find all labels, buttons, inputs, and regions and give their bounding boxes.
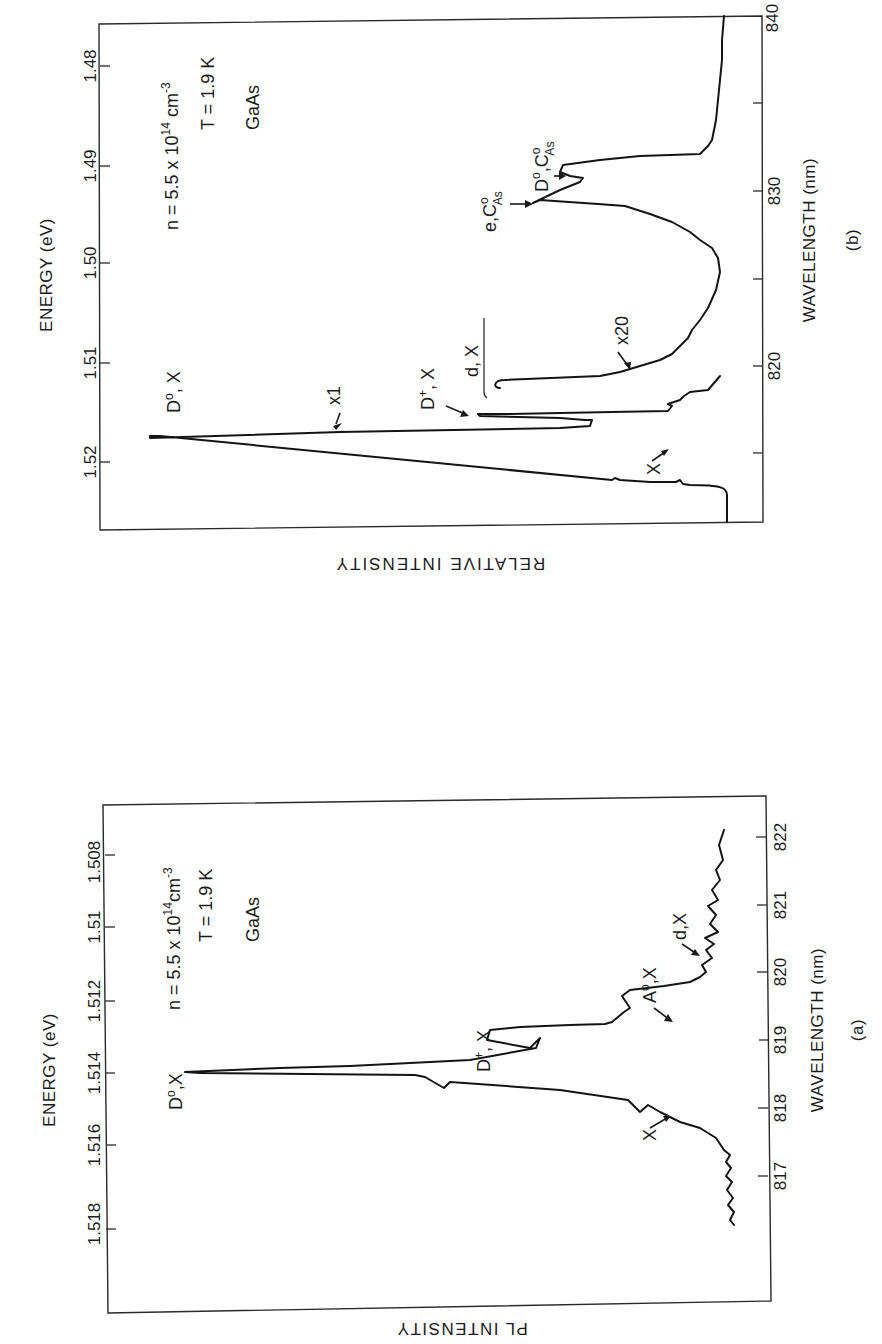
panel-a-annotations: Do,X D+, X Ao,X d,X X (164, 913, 700, 1141)
tick-label: 1.49 (81, 149, 100, 182)
tick-label: 819 (771, 1026, 790, 1054)
tick-label: 818 (771, 1094, 790, 1122)
x1-arrow (336, 413, 340, 424)
pl-trace (185, 830, 734, 1225)
ec-label: e,CoAs (477, 191, 505, 232)
tick-label: 817 (771, 1162, 790, 1190)
material-label: GaAs (243, 85, 263, 130)
dx-label: d,X (670, 913, 690, 940)
arrow-head (460, 410, 469, 417)
dplus-label: D+, X (472, 1030, 494, 1072)
d0x-label: Do, X (162, 371, 184, 413)
tick-label: 1.52 (81, 445, 100, 478)
panel-a: 1.508 1.51 1.512 1.514 1.516 1.518 ENERG… (40, 796, 867, 1338)
panel-a-wavelength-axis: 817 818 819 820 821 822 WAVELENGTH (nm) … (756, 823, 867, 1190)
tick-label: 1.51 (81, 346, 100, 379)
wavelength-axis-label: WAVELENGTH (nm) (808, 948, 827, 1112)
panel-b-spectra (150, 16, 727, 522)
tick-label: 1.50 (81, 246, 100, 279)
intensity-axis-label: PL INTENSITY (396, 1319, 528, 1338)
arrow-head (525, 200, 533, 208)
tick-label: 820 (771, 958, 790, 986)
energy-axis-label: ENERGY (eV) (40, 1013, 59, 1127)
energy-axis-label: ENERGY (eV) (37, 218, 56, 332)
material-label: GaAs (243, 897, 263, 942)
temperature-label: T = 1.9 K (196, 869, 216, 942)
density-label: n = 5.5 x 1014 cm-3 (159, 82, 182, 230)
figure-canvas: 1.48 1.49 1.50 1.51 1.52 ENERGY (eV) 820… (0, 0, 882, 1344)
arrow-head (664, 1014, 673, 1022)
panel-a-info: n = 5.5 x 1014cm-3 T = 1.9 K GaAs (161, 867, 263, 1010)
dx-bracket (484, 318, 487, 398)
wavelength-axis-label: WAVELENGTH (nm) (800, 158, 819, 322)
tick-label: 830 (765, 177, 784, 205)
tick-label: 1.508 (85, 841, 104, 884)
x1-label: x1 (324, 386, 344, 405)
arrow-head (661, 449, 669, 456)
x20-trace (495, 16, 724, 388)
tick-label: 1.51 (85, 910, 104, 943)
x-label: X (640, 1129, 660, 1141)
x20-label: x20 (612, 316, 632, 345)
x-arrow (650, 1118, 667, 1128)
d0x-label: Do,X (164, 1073, 186, 1110)
intensity-axis-label: RELATIVE INTENSITY (335, 554, 545, 573)
panel-b-wavelength-axis: 820 830 840 WAVELENGTH (nm) (b) (753, 4, 862, 453)
tick-label: 1.518 (85, 1203, 104, 1246)
tick-label: 822 (771, 823, 790, 851)
dplus-label: D+, X (416, 368, 438, 410)
tick-label: 1.512 (85, 980, 104, 1023)
tick-label: 1.514 (85, 1052, 104, 1095)
tick-label: 840 (763, 4, 782, 32)
panel-b-annotations: Do, X x1 D+, X d, X x20 X e,CoAs Do,CoAs (162, 142, 669, 475)
tick-label: 821 (771, 891, 790, 919)
x-label: X (644, 463, 664, 475)
panel-b-info: n = 5.5 x 1014 cm-3 T = 1.9 K GaAs (159, 57, 263, 230)
dx-label: d, X (462, 345, 482, 377)
arrow-head (333, 423, 342, 430)
panel-b: 1.48 1.49 1.50 1.51 1.52 ENERGY (eV) 820… (37, 4, 862, 573)
x1-trace (150, 376, 727, 522)
density-label: n = 5.5 x 1014cm-3 (161, 867, 184, 1010)
panel-caption: (b) (843, 229, 862, 251)
panel-caption: (a) (848, 1019, 867, 1041)
tick-label: 1.48 (81, 49, 100, 82)
tick-label: 1.516 (85, 1124, 104, 1167)
a0x-label: Ao,X (638, 967, 660, 1003)
dc-label: Do,CoAs (529, 142, 557, 192)
panel-a-spectra (185, 830, 734, 1225)
tick-label: 820 (765, 352, 784, 380)
temperature-label: T = 1.9 K (198, 57, 218, 130)
